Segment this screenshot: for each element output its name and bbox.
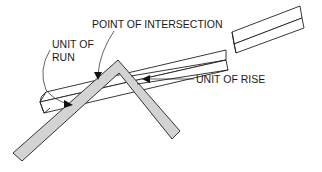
diagram-canvas: POINT OF INTERSECTION UNIT OF RUN UNIT O… bbox=[0, 0, 322, 172]
label-point-of-intersection: POINT OF INTERSECTION bbox=[92, 18, 222, 30]
label-unit-of-run-line2: RUN bbox=[52, 51, 75, 63]
framing-square-diagram: POINT OF INTERSECTION UNIT OF RUN UNIT O… bbox=[0, 0, 322, 172]
label-unit-of-rise: UNIT OF RISE bbox=[196, 73, 265, 85]
rafter-board-right bbox=[232, 6, 304, 53]
label-unit-of-run-line1: UNIT OF bbox=[52, 38, 94, 50]
